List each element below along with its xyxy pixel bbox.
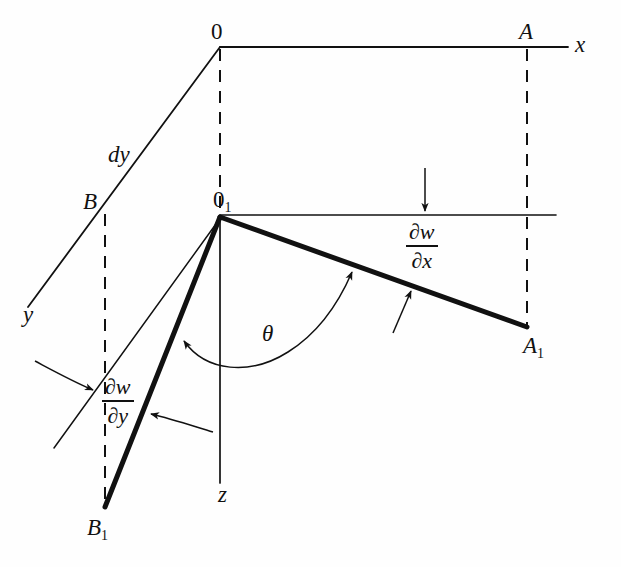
fraction-dw-dx-numerator: ∂w [406, 220, 438, 244]
reference-y-parallel-line [54, 217, 221, 448]
label-origin1-subscript: 1 [225, 200, 232, 215]
label-origin1: 01 [213, 188, 232, 211]
label-point-a: A [519, 20, 533, 43]
fraction-dw-dx-denominator: ∂x [406, 248, 438, 272]
theta-angle-arc [184, 272, 352, 368]
label-point-a1-subscript: 1 [537, 346, 544, 361]
label-point-b1-base: B [87, 515, 101, 540]
label-point-b: B [83, 190, 97, 213]
diagram-svg [0, 0, 621, 567]
label-point-b1-subscript: 1 [101, 528, 108, 543]
fraction-dw-dy-bar [102, 400, 134, 402]
label-point-a1: A1 [523, 334, 544, 357]
deflected-edge-o1-b1 [105, 217, 220, 507]
label-point-a1-base: A [523, 333, 537, 358]
leader-arrow-dwdy-lower [151, 414, 213, 432]
label-theta: θ [262, 322, 273, 345]
leader-arrow-dwdx-bottom [393, 291, 411, 333]
label-axis-y: y [23, 303, 33, 326]
label-dy: dy [108, 143, 130, 166]
fraction-dw-dy: ∂w ∂y [102, 375, 134, 427]
figure-canvas: 0 x A dy B y 01 z θ A1 B1 ∂w ∂x ∂w ∂y [0, 0, 621, 567]
fraction-dw-dy-numerator: ∂w [102, 375, 134, 399]
fraction-dw-dx: ∂w ∂x [406, 220, 438, 272]
label-axis-z: z [218, 483, 227, 506]
label-origin: 0 [211, 20, 223, 43]
fraction-dw-dy-denominator: ∂y [102, 403, 134, 427]
deflected-edge-o1-a1 [220, 217, 527, 327]
fraction-dw-dx-bar [406, 245, 438, 247]
leader-arrow-dwdy-upper [35, 361, 93, 390]
label-point-b1: B1 [87, 516, 108, 539]
label-axis-x: x [575, 33, 585, 56]
label-origin1-base: 0 [213, 187, 225, 212]
axis-y-line [28, 47, 220, 307]
